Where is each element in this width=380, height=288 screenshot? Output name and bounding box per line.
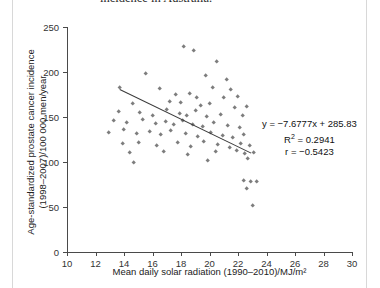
data-point [116, 109, 121, 114]
data-point [153, 121, 158, 126]
data-point [236, 94, 241, 99]
data-point [169, 128, 174, 133]
data-point [120, 142, 125, 147]
data-point [241, 179, 246, 184]
caption-line: incidence in Australia. [100, 0, 212, 5]
data-point [203, 73, 208, 78]
x-tick-mark [181, 252, 182, 256]
data-point [191, 48, 196, 53]
x-tick-mark [238, 252, 239, 256]
data-point [124, 120, 129, 125]
data-point [211, 120, 216, 125]
data-point [210, 85, 215, 90]
data-point [221, 96, 226, 101]
data-point [250, 204, 255, 209]
data-point [214, 59, 219, 64]
figure-caption: incidence in Australia. [100, 0, 350, 6]
data-point [179, 100, 184, 105]
data-point [171, 123, 176, 128]
data-point [112, 118, 117, 123]
data-point [143, 71, 148, 76]
data-point [201, 139, 206, 144]
data-point [238, 142, 243, 147]
data-point [237, 125, 242, 130]
data-point [181, 44, 186, 49]
data-point [150, 113, 155, 118]
data-point [132, 161, 137, 166]
y-tick-mark [63, 162, 67, 163]
r-squared-label: R [284, 134, 291, 145]
data-point [127, 151, 132, 156]
data-point [154, 143, 159, 148]
data-point [233, 106, 238, 111]
data-point [157, 87, 162, 92]
data-point [137, 110, 142, 115]
x-tick-mark [210, 252, 211, 256]
y-tick-mark [63, 207, 67, 208]
r-squared-value: = 0.2941 [295, 134, 335, 145]
data-point [186, 152, 191, 157]
regression-equation: y = −7.6777x + 285.83 [262, 118, 357, 131]
page-right-rule [366, 0, 367, 288]
x-tick-mark [153, 252, 154, 256]
data-point [130, 101, 135, 106]
data-point [140, 117, 145, 122]
data-point [254, 179, 259, 184]
data-point [163, 119, 168, 124]
figure-page: incidence in Australia. 050100150200250 … [0, 0, 380, 288]
data-point [184, 114, 189, 119]
x-tick-mark [124, 252, 125, 256]
y-axis-title-line2: (1998–2007)/100 000 men/year [37, 27, 49, 257]
x-tick-mark [67, 252, 68, 256]
data-point [134, 132, 139, 137]
data-point [177, 111, 182, 116]
data-point [196, 134, 201, 139]
x-tick-mark [267, 252, 268, 256]
data-point [204, 115, 209, 120]
data-point [216, 143, 221, 148]
data-point [247, 143, 252, 148]
data-point [226, 124, 231, 129]
data-point [224, 77, 229, 82]
data-point [122, 127, 127, 132]
data-point [207, 101, 212, 106]
data-point [176, 141, 181, 146]
y-axis-title: Age-standardized prostate cancer inciden… [25, 27, 49, 257]
data-point [240, 113, 245, 118]
data-point [183, 131, 188, 136]
data-point [248, 179, 253, 184]
data-point [227, 145, 232, 150]
y-tick-mark [63, 72, 67, 73]
data-point [246, 156, 251, 161]
data-point [241, 133, 246, 138]
x-axis-title: Mean daily solar radiation (1990–2010)/M… [67, 266, 352, 277]
data-point [167, 99, 172, 104]
data-point [199, 103, 204, 108]
y-axis-title-line1: Age-standardized prostate cancer inciden… [25, 27, 37, 257]
x-tick-mark [324, 252, 325, 256]
x-tick-mark [295, 252, 296, 256]
data-point [230, 135, 235, 140]
data-point [251, 151, 256, 156]
r-squared-line: R2 = 0.2941 [262, 131, 357, 147]
data-point [244, 104, 249, 109]
x-axis-title-text: Mean daily solar radiation (1990–2010)/M… [113, 266, 307, 277]
data-point [136, 140, 141, 145]
data-point [159, 133, 164, 138]
y-tick-mark [63, 117, 67, 118]
regression-annotation: y = −7.6777x + 285.83 R2 = 0.2941 r = −0… [262, 118, 357, 159]
data-point [206, 158, 211, 163]
data-point [106, 130, 111, 135]
data-point [147, 129, 152, 134]
x-tick-mark [96, 252, 97, 256]
correlation-line: r = −0.5423 [262, 146, 357, 159]
data-point [234, 148, 239, 153]
data-point [189, 144, 194, 149]
y-axis-line [67, 27, 68, 252]
data-point [213, 150, 218, 155]
x-tick-mark [352, 252, 353, 256]
data-point [219, 112, 224, 117]
data-point [228, 88, 233, 93]
y-tick-mark [63, 27, 67, 28]
data-point [194, 95, 199, 100]
